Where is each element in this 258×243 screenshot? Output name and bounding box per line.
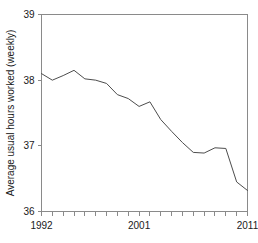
chart-container: 36373839 199220012011 Average usual hour… (0, 0, 258, 243)
y-axis-title: Average usual hours worked (weekly) (5, 30, 16, 197)
line-chart: 36373839 199220012011 Average usual hour… (0, 0, 258, 243)
y-tick-label: 36 (23, 206, 35, 217)
y-tick-label: 38 (23, 75, 35, 86)
y-tick-label: 39 (23, 9, 35, 20)
y-tick-label: 37 (23, 140, 35, 151)
x-tick-label: 2001 (128, 220, 151, 231)
x-tick-label: 2011 (237, 220, 258, 231)
chart-background (0, 0, 258, 243)
x-tick-label: 1992 (30, 220, 53, 231)
